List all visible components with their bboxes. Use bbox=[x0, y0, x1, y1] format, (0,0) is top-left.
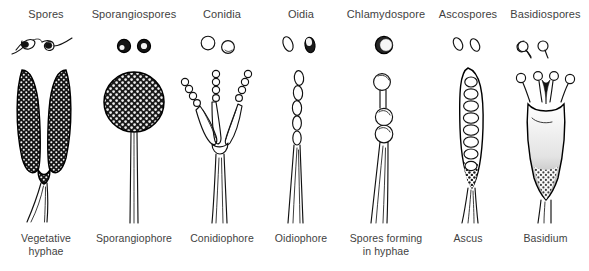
column-basidiospores: Basidiospores bbox=[502, 0, 589, 271]
column-spores: Spores bbox=[0, 0, 92, 271]
column-conidia: Conidia bbox=[176, 0, 268, 271]
column-header-chlamydospore: Chlamydospore bbox=[338, 8, 434, 21]
column-oidia: Oidia Oidiophore bbox=[258, 0, 344, 271]
column-footer-conidiophore: Conidiophore bbox=[176, 232, 268, 245]
column-header-spores: Spores bbox=[0, 8, 92, 21]
column-header-sporangiospores: Sporangiospores bbox=[88, 8, 180, 21]
column-header-ascospores: Ascospores bbox=[428, 8, 508, 21]
oidiophore-icon bbox=[258, 66, 344, 224]
thick-walled-spore-icon bbox=[338, 28, 434, 62]
sporangiophore-icon bbox=[88, 66, 180, 224]
round-spore-pair-icon bbox=[88, 28, 180, 62]
column-sporangiospores: Sporangiospores bbox=[88, 0, 180, 271]
conidia-chain-right bbox=[236, 70, 252, 101]
column-footer-basidium: Basidium bbox=[502, 232, 589, 245]
column-footer-sporangiophore: Sporangiophore bbox=[88, 232, 180, 245]
column-footer-spores-forming-in-hyphae: Spores forming in hyphae bbox=[338, 232, 434, 257]
footer-line-1: Vegetative bbox=[21, 232, 71, 244]
footer-line-2: hyphae bbox=[28, 245, 63, 257]
footer-line-1: Spores forming bbox=[350, 232, 423, 244]
basidium-icon bbox=[502, 66, 589, 224]
conidiophore-icon bbox=[176, 66, 268, 224]
vegetative-hyphae-icon bbox=[0, 66, 92, 224]
oval-oidia-pair-icon bbox=[258, 28, 344, 62]
chlamydospore-hypha-icon bbox=[338, 66, 434, 224]
column-header-conidia: Conidia bbox=[176, 8, 268, 21]
oval-ascospore-pair-icon bbox=[428, 28, 508, 62]
round-conidia-pair-icon bbox=[176, 28, 268, 62]
column-header-oidia: Oidia bbox=[258, 8, 344, 21]
teardrop-basidiospore-pair-icon bbox=[502, 28, 589, 62]
column-header-basidiospores: Basidiospores bbox=[502, 8, 589, 21]
footer-line-2: in hyphae bbox=[363, 245, 409, 257]
column-footer-ascus: Ascus bbox=[428, 232, 508, 245]
column-chlamydospore: Chlamydospore S bbox=[338, 0, 434, 271]
hyphal-fragments-icon bbox=[0, 28, 92, 62]
fungal-spore-types-figure: Spores bbox=[0, 0, 589, 271]
ascus-icon bbox=[428, 66, 508, 224]
column-ascospores: Ascospores bbox=[428, 0, 508, 271]
conidia-chain-mid bbox=[212, 70, 219, 101]
column-footer-vegetative-hyphae: Vegetative hyphae bbox=[0, 232, 92, 257]
conidia-chain-left bbox=[181, 78, 200, 106]
column-footer-oidiophore: Oidiophore bbox=[258, 232, 344, 245]
